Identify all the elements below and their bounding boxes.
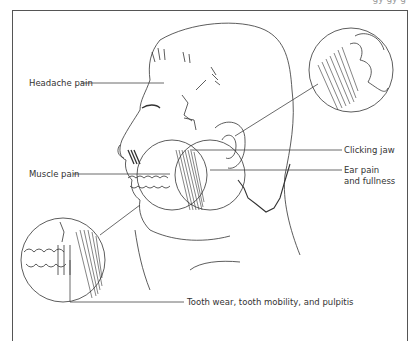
label-muscle-pain: Muscle pain	[29, 169, 79, 180]
label-ear-pain-line2: and fullness	[344, 176, 395, 187]
label-ear-pain-line1: Ear pain	[344, 165, 379, 176]
label-clicking-jaw: Clicking jaw	[344, 145, 395, 156]
leader-lines	[70, 83, 342, 302]
label-headache-pain: Headache pain	[29, 78, 93, 89]
head-outline	[118, 23, 300, 290]
tmj-inset	[309, 28, 393, 112]
label-tooth-wear: Tooth wear, tooth mobility, and pulpitis	[187, 297, 353, 308]
teeth-inset	[21, 218, 105, 302]
